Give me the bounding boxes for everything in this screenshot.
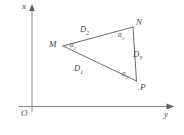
- geometry-figure: x y O M N P D1 D2 D3 a1 a2 a3: [0, 0, 184, 135]
- y-axis: [18, 104, 174, 110]
- x-axis-arrow-icon: [29, 4, 35, 11]
- side-label-d2-subscript: 2: [86, 30, 89, 36]
- angle-label-a1-subscript: 1: [74, 46, 76, 51]
- side-label-d1-subscript: 1: [80, 69, 83, 75]
- origin-label: O: [21, 109, 28, 118]
- x-axis: [29, 4, 35, 112]
- x-axis-label: x: [22, 2, 26, 11]
- angle-label-a2-subscript: 2: [126, 75, 128, 80]
- angle-label-a3-subscript: 3: [122, 36, 124, 41]
- vertex-label-n: N: [136, 18, 142, 27]
- angle-label-a2: a2: [122, 70, 128, 80]
- side-label-d3: D3: [133, 50, 142, 61]
- angle-label-a1: a1: [70, 41, 76, 51]
- vertex-label-m: M: [49, 40, 57, 49]
- side-label-d2: D2: [80, 25, 89, 36]
- angle-label-a3: a3: [118, 31, 124, 41]
- y-axis-label: y: [164, 110, 168, 119]
- side-label-d3-subscript: 3: [139, 55, 142, 61]
- side-label-d1: D1: [74, 64, 83, 75]
- vertex-label-p: P: [140, 83, 146, 92]
